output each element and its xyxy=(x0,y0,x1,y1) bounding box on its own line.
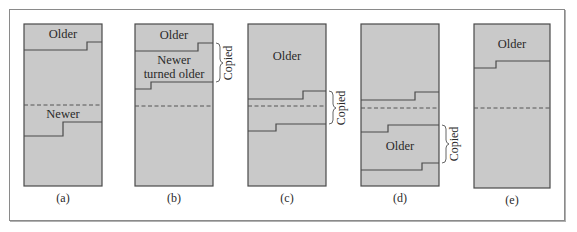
label-newer: Newer xyxy=(157,53,191,67)
generational-copy-diagram: Older Newer (a) Older Newer turned older… xyxy=(0,0,577,232)
label-older: Older xyxy=(273,49,302,63)
label-newer: Newer xyxy=(46,107,80,121)
panel-b: Older Newer turned older Copied (b) xyxy=(135,24,235,205)
panel-caption: (a) xyxy=(56,191,69,205)
label-older: Older xyxy=(498,37,527,51)
panel-caption: (e) xyxy=(505,193,518,207)
panel-a: Older Newer (a) xyxy=(24,24,102,205)
label-older: Older xyxy=(49,27,78,41)
panel-caption: (d) xyxy=(393,191,407,205)
label-older: Older xyxy=(160,28,189,42)
panel-caption: (c) xyxy=(280,191,293,205)
memory-block xyxy=(135,24,213,186)
panel-caption: (b) xyxy=(167,191,181,205)
label-older: Older xyxy=(386,139,415,153)
panel-c: Older Copied (c) xyxy=(248,24,348,205)
copied-label: Copied xyxy=(221,46,235,81)
copied-label: Copied xyxy=(447,127,461,162)
panel-e: Older (e) xyxy=(474,24,550,207)
memory-block xyxy=(361,24,439,186)
panel-d: Older Copied (d) xyxy=(361,24,461,205)
copied-label: Copied xyxy=(334,91,348,126)
label-turned-older: turned older xyxy=(144,67,206,81)
